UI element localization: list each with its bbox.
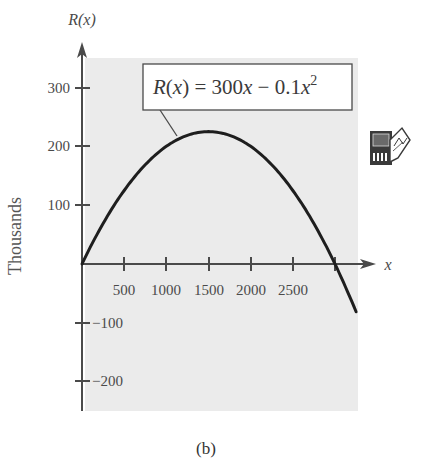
revenue-chart: 300 200 100 −100 −200 500 1000 1500 2000… — [0, 0, 423, 460]
graphing-calculator-icon — [370, 128, 410, 165]
x-tick-label: 1000 — [151, 282, 181, 298]
x-tick-label: 1500 — [194, 282, 224, 298]
y-tick-label: 200 — [48, 138, 71, 154]
y-tick-label: −200 — [92, 373, 123, 389]
y-tick-label: 100 — [48, 197, 71, 213]
x-tick-label: 2000 — [236, 282, 266, 298]
x-tick-label: 2500 — [278, 282, 308, 298]
y-tick-label: −100 — [92, 315, 123, 331]
x-tick-label: 500 — [113, 282, 136, 298]
x-axis-title: x — [383, 256, 391, 273]
figure-caption: (b) — [196, 439, 216, 458]
y-units-label: Thousands — [5, 197, 25, 275]
y-tick-label: 300 — [48, 80, 71, 96]
y-axis-title: R(x) — [67, 11, 96, 29]
plot-background — [85, 58, 358, 411]
equation-label: R(x) = 300x − 0.1x2 — [152, 73, 317, 99]
